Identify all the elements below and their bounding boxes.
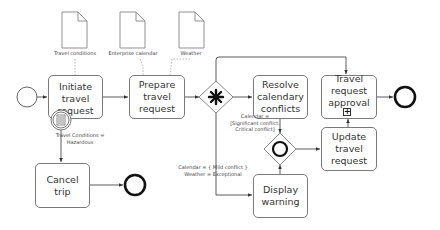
end-event-approval[interactable] <box>395 87 415 107</box>
condition-hazardous: Travel Conditions = Hazardous <box>50 132 110 145</box>
data-associations <box>75 59 190 75</box>
task-label: Cancel trip <box>38 174 87 198</box>
task-label: Resolve calendary conflicts <box>257 79 304 115</box>
condition-significant-conflict: Calendar = [Significant conflict, Critic… <box>225 113 285 133</box>
task-label: Initiate travel request <box>51 81 100 117</box>
inclusive-gateway[interactable] <box>264 133 296 165</box>
task-label: Travel request approval <box>328 73 369 109</box>
task-label: Prepare travel request <box>138 79 176 115</box>
condition-line: Weather = Exceptional <box>168 171 258 178</box>
label-travel-conditions: Travel conditions <box>48 50 102 57</box>
document-icon-weather <box>179 12 204 48</box>
complex-gateway[interactable] <box>199 81 233 113</box>
subprocess-expand-button[interactable]: + <box>343 108 351 116</box>
condition-line: Hazardous <box>50 139 110 146</box>
task-update-travel-request[interactable]: Update travel request <box>321 127 377 171</box>
condition-line: Travel Conditions = <box>50 132 110 139</box>
start-event[interactable] <box>17 87 37 107</box>
task-initiate-travel-request[interactable]: Initiate travel request <box>48 75 103 119</box>
task-prepare-travel-request[interactable]: Prepare travel request <box>129 75 185 119</box>
task-label: Display warning <box>261 184 299 208</box>
condition-line: Critical conflict] <box>225 126 285 133</box>
task-label: Update travel request <box>325 131 373 167</box>
label-enterprise-calendar: Enterprise calendar <box>105 50 161 57</box>
condition-line: Calendar = { Mild conflict } <box>168 164 258 171</box>
label-weather: Weather <box>170 50 212 57</box>
document-icon-enterprise-calendar <box>120 12 145 48</box>
condition-mild-conflict: Calendar = { Mild conflict } Weather = E… <box>168 164 258 177</box>
end-event-cancel[interactable] <box>125 175 145 195</box>
task-cancel-trip[interactable]: Cancel trip <box>35 163 90 208</box>
asterisk-icon <box>209 90 223 104</box>
plus-icon: + <box>344 107 351 116</box>
document-icon-travel-conditions <box>62 12 87 48</box>
task-display-warning[interactable]: Display warning <box>253 174 308 218</box>
